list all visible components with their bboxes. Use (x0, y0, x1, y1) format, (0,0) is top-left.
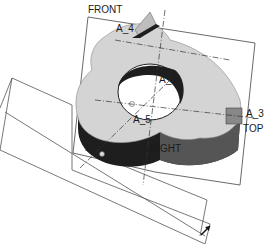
right-plane-label[interactable]: RIGHT (150, 144, 181, 154)
axis-a4-label[interactable]: A_4 (116, 24, 134, 34)
axis-a5-label[interactable]: A_5 (133, 115, 151, 125)
front-plane-label[interactable]: FRONT (88, 5, 122, 15)
coordinate-triad-icon (201, 226, 210, 235)
axis-a3-label[interactable]: A_3 (246, 109, 264, 119)
top-plane-label[interactable]: TOP (243, 124, 263, 134)
axis-a1-label[interactable]: A_1 (159, 75, 177, 85)
bolt-hole (100, 152, 105, 157)
